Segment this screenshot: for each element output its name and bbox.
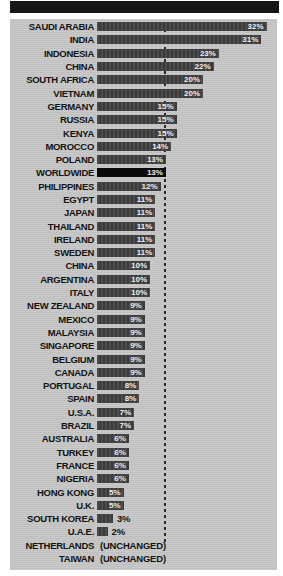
value-label: 5% <box>109 488 124 497</box>
bar-track: 6% <box>97 461 277 470</box>
country-label: CANADA <box>10 367 97 378</box>
bar-track: 5% <box>97 501 277 510</box>
country-label: BELGIUM <box>10 354 97 365</box>
bar: 9% <box>97 301 145 310</box>
value-label: 20% <box>184 75 203 84</box>
country-label: SOUTH AFRICA <box>10 74 97 85</box>
bar-track: 11% <box>97 235 277 244</box>
country-label: JAPAN <box>10 207 97 218</box>
country-label: VIETNAM <box>10 88 97 99</box>
bar-track: 32% <box>97 22 277 31</box>
value-label: 31% <box>242 35 261 44</box>
country-label: IRELAND <box>10 234 97 245</box>
country-label: CHINA <box>10 260 97 271</box>
bar: 7% <box>97 421 134 430</box>
bar-row: THAILAND 11% <box>10 219 277 232</box>
bar-track: 6% <box>97 448 277 457</box>
bar-track: 10% <box>97 288 277 297</box>
bar: 11% <box>97 248 155 257</box>
bar-row: NETHERLANDS (UNCHANGED) <box>10 539 277 552</box>
country-label: THAILAND <box>10 221 97 232</box>
value-label: 10% <box>131 288 150 297</box>
rows: SAUDI ARABIA 32% INDIA 31% INDONESIA 23%… <box>10 19 277 565</box>
country-label: U.S.A. <box>10 407 97 418</box>
value-label-outside: (UNCHANGED) <box>100 553 166 564</box>
bar-row: TAIWAN (UNCHANGED) <box>10 552 277 565</box>
bar-row: SWEDEN 11% <box>10 246 277 259</box>
country-label: NIGERIA <box>10 473 97 484</box>
bar-track: 9% <box>97 315 277 324</box>
value-label: 15% <box>157 115 176 124</box>
country-label: MALAYSIA <box>10 327 97 338</box>
bar-row: BRAZIL 7% <box>10 419 277 432</box>
value-label: 7% <box>120 408 135 417</box>
value-label: 9% <box>130 355 145 364</box>
country-label: POLAND <box>10 154 97 165</box>
chart-panel: SAUDI ARABIA 32% INDIA 31% INDONESIA 23%… <box>10 19 277 570</box>
bar: 11% <box>97 235 155 244</box>
value-label: 11% <box>137 195 156 204</box>
bar-row: VIETNAM 20% <box>10 86 277 99</box>
value-label: 13% <box>147 155 166 164</box>
bar-track: 10% <box>97 275 277 284</box>
bar-track: 31% <box>97 35 277 44</box>
bar-row: MEXICO 9% <box>10 313 277 326</box>
bar-track: 7% <box>97 421 277 430</box>
bar-row: KENYA 15% <box>10 126 277 139</box>
bar-track: 23% <box>97 49 277 58</box>
bar: 23% <box>97 49 219 58</box>
country-label: U.A.E. <box>10 526 97 537</box>
bar-track: 20% <box>97 75 277 84</box>
value-label: 9% <box>130 328 145 337</box>
value-label: 10% <box>131 275 150 284</box>
bar: 13% <box>97 168 166 177</box>
bar-row: IRELAND 11% <box>10 233 277 246</box>
country-label: PHILIPPINES <box>10 181 97 192</box>
bar-row: SOUTH KOREA 3% <box>10 512 277 525</box>
bar-track: 9% <box>97 328 277 337</box>
bar: 15% <box>97 115 177 124</box>
bar <box>97 527 108 536</box>
bar: 7% <box>97 408 134 417</box>
bar-row: NEW ZEALAND 9% <box>10 299 277 312</box>
bar-row: CHINA 10% <box>10 259 277 272</box>
bar-row: INDIA 31% <box>10 33 277 46</box>
value-label: 22% <box>195 62 214 71</box>
bar-row: CANADA 9% <box>10 366 277 379</box>
country-label: WORLDWIDE <box>10 167 97 178</box>
value-label: 14% <box>152 142 171 151</box>
value-label: 6% <box>114 448 129 457</box>
bar-row: INDONESIA 23% <box>10 47 277 60</box>
country-label: INDIA <box>10 34 97 45</box>
bar-row: CHINA 22% <box>10 60 277 73</box>
bar-row: BELGIUM 9% <box>10 352 277 365</box>
bar: 31% <box>97 35 261 44</box>
bar: 22% <box>97 62 214 71</box>
bar-row: GERMANY 15% <box>10 100 277 113</box>
bar: 9% <box>97 368 145 377</box>
value-label: 11% <box>137 208 156 217</box>
bar-track: 5% <box>97 488 277 497</box>
bar: 12% <box>97 182 161 191</box>
value-label: 11% <box>137 222 156 231</box>
bar-track: 15% <box>97 115 277 124</box>
bar: 20% <box>97 89 203 98</box>
value-label: 9% <box>130 315 145 324</box>
bar-row: NIGERIA 6% <box>10 472 277 485</box>
bar-row: TURKEY 6% <box>10 446 277 459</box>
bar: 11% <box>97 222 155 231</box>
bar-row: SOUTH AFRICA 20% <box>10 73 277 86</box>
bar: 9% <box>97 355 145 364</box>
bar-row: RUSSIA 15% <box>10 113 277 126</box>
bar: 6% <box>97 474 129 483</box>
country-label: GERMANY <box>10 101 97 112</box>
value-label: 9% <box>130 368 145 377</box>
bar-row: ARGENTINA 10% <box>10 273 277 286</box>
value-label: 32% <box>248 22 267 31</box>
bar: 8% <box>97 381 139 390</box>
country-label: BRAZIL <box>10 420 97 431</box>
bar-track: 3% <box>97 513 277 524</box>
bar-row: PHILIPPINES 12% <box>10 180 277 193</box>
value-label-outside: 2% <box>112 526 125 537</box>
country-label: MOROCCO <box>10 141 97 152</box>
